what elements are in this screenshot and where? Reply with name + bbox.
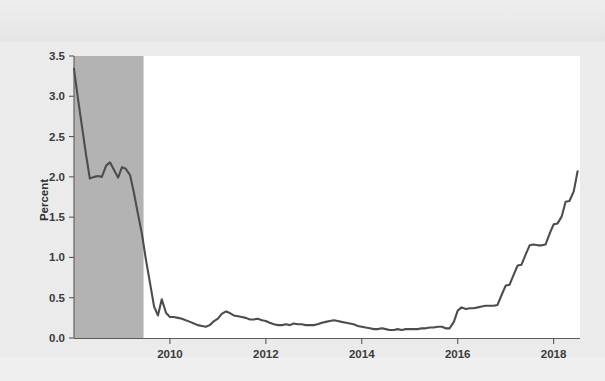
x-tick-label: 2016	[445, 348, 471, 360]
y-tick-label: 3.5	[49, 50, 66, 62]
y-tick-label: 1.5	[49, 211, 66, 223]
x-axis-ticks: 20102012201420162018	[157, 338, 567, 360]
recession-band-recession	[74, 56, 144, 338]
y-tick-label: 2.5	[49, 131, 66, 143]
recession-shading-group	[74, 56, 144, 338]
x-tick-label: 2014	[349, 348, 375, 360]
y-axis-ticks: 0.00.51.01.52.02.53.03.5	[49, 50, 74, 344]
y-axis-title: Percent	[38, 179, 50, 221]
x-tick-label: 2012	[253, 348, 279, 360]
y-tick-label: 2.0	[49, 171, 65, 183]
y-tick-label: 3.0	[49, 90, 65, 102]
chart-figure: 0.00.51.01.52.02.53.03.5 201020122014201…	[0, 0, 605, 381]
y-tick-label: 1.0	[49, 251, 65, 263]
x-tick-label: 2010	[157, 348, 183, 360]
plot-area-background	[74, 56, 580, 338]
y-tick-label: 0.0	[49, 332, 65, 344]
y-tick-label: 0.5	[49, 292, 66, 304]
x-tick-label: 2018	[541, 348, 567, 360]
line-chart: 0.00.51.01.52.02.53.03.5 201020122014201…	[0, 0, 605, 381]
